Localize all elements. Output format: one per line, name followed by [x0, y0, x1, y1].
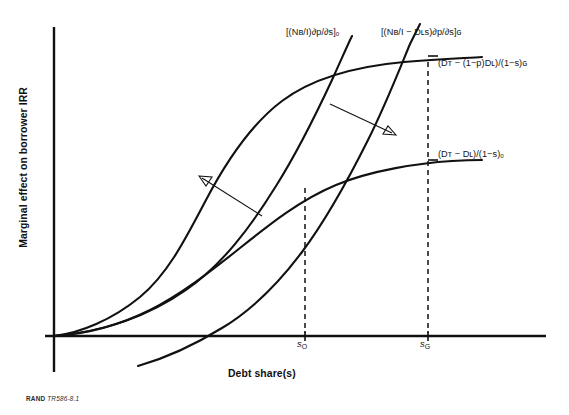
label-marginal-benefit-g: [(Nʙ/I − Dʟs)∂p/∂s]ɢ: [381, 27, 462, 38]
axes-group: [45, 27, 546, 372]
shift-arrow-cost-head: [199, 176, 212, 186]
curve-marginal-benefit-o: [54, 36, 352, 336]
x-tick-label-s-g-sub: G: [425, 343, 430, 350]
source-note-id: TR586-8.1: [47, 395, 79, 402]
label-asymptote-g: (Dᴛ − (1−p)Dʟ)/(1−s)ɢ: [438, 58, 527, 69]
shift-arrow-cost-shaft: [202, 178, 262, 216]
source-note-brand: RAND: [26, 395, 45, 402]
source-note: RAND TR586-8.1: [26, 395, 79, 402]
label-marginal-benefit-o: [(Nʙ/I)∂p/∂s]ₒ: [286, 27, 339, 38]
figure-container: Marginal effect on borrower IRR Debt sha…: [0, 0, 569, 415]
shift-arrow-benefit: [330, 104, 396, 135]
shift-arrow-benefit-head: [383, 126, 396, 135]
curve-marginal-benefit-g: [138, 24, 420, 366]
x-tick-label-s-o: sO: [297, 339, 307, 351]
x-tick-label-s-o-sub: O: [302, 343, 307, 350]
label-asymptote-o: (Dᴛ − Dʟ)/(1−s)ₒ: [438, 149, 504, 160]
curve-marginal-cost-g: [54, 57, 482, 336]
x-tick-label-s-g: sG: [420, 339, 430, 351]
y-axis-title: Marginal effect on borrower IRR: [18, 60, 29, 275]
x-axis-title: Debt share(s): [228, 368, 296, 379]
curve-marginal-cost-o: [54, 160, 482, 336]
